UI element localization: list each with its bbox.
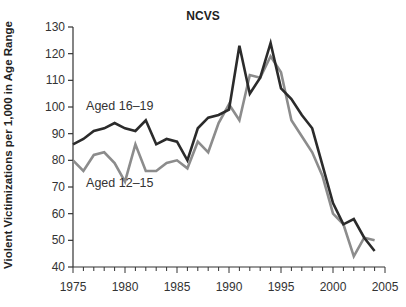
x-tick-label: 1975: [60, 280, 87, 294]
y-tick-label: 80: [52, 153, 66, 167]
y-tick-label: 100: [45, 100, 65, 114]
x-tick-label: 2000: [320, 280, 347, 294]
x-tick-label: 1995: [268, 280, 295, 294]
x-tick-label: 1985: [164, 280, 191, 294]
y-tick-label: 40: [52, 260, 66, 274]
x-tick-label: 2005: [372, 280, 399, 294]
data-lines: [73, 43, 375, 256]
y-tick-label: 60: [52, 207, 66, 221]
y-tick-label: 90: [52, 127, 66, 141]
y-tick-label: 130: [45, 20, 65, 34]
y-tick-label: 70: [52, 180, 66, 194]
y-tick-label: 120: [45, 47, 65, 61]
series-line: [73, 56, 375, 256]
series-labels: Aged 16–19Aged 12–15: [86, 99, 153, 190]
y-tick-label: 50: [52, 233, 66, 247]
x-tick-label: 1990: [216, 280, 243, 294]
plot-area: 4050607080901001101201301975198019851990…: [0, 0, 406, 307]
y-tick-label: 110: [46, 73, 65, 87]
series-line: [73, 43, 375, 251]
axes: 4050607080901001101201301975198019851990…: [45, 20, 399, 294]
series-label: Aged 16–19: [86, 99, 153, 113]
series-label: Aged 12–15: [86, 176, 153, 190]
chart-container: NCVS Violent Victimizations per 1,000 in…: [0, 0, 406, 307]
x-tick-label: 1980: [112, 280, 139, 294]
